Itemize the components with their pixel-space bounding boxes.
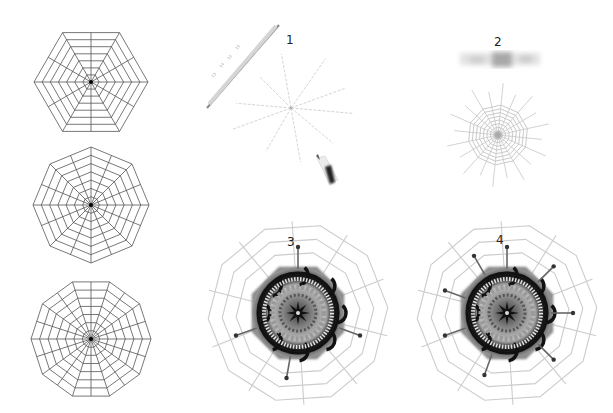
step-label-1: 1	[286, 33, 294, 47]
drawn-web	[447, 83, 549, 186]
svg-text:14: 14	[218, 61, 225, 68]
ruler: 13 14 15 16	[207, 25, 279, 108]
faint-guide-spokes	[233, 54, 353, 162]
step3-doily	[208, 221, 388, 405]
svg-text:15: 15	[226, 53, 233, 60]
step-label-4: 4	[496, 233, 504, 247]
step4-doily	[417, 221, 597, 405]
hexagon-web-template	[34, 33, 148, 132]
step-label-2: 2	[494, 35, 502, 49]
decagon-web-template	[31, 282, 151, 396]
yarn-strip	[460, 52, 540, 67]
step-label-3: 3	[287, 235, 295, 249]
octagon-web-template	[33, 147, 149, 263]
figure-canvas: 13 14 15 16 1 2 3 4	[0, 0, 613, 413]
step2-panel	[447, 52, 549, 187]
pencil-icon	[316, 154, 338, 185]
svg-text:13: 13	[210, 71, 217, 78]
step1-panel: 13 14 15 16	[207, 25, 353, 185]
svg-text:16: 16	[234, 43, 241, 50]
